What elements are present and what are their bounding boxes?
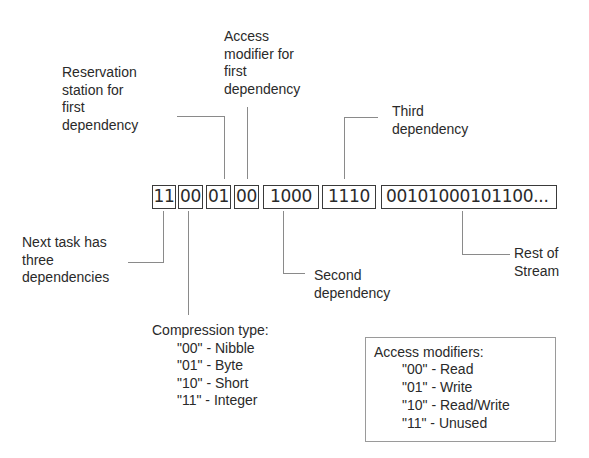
compression-type-item: "00" - Nibble bbox=[152, 340, 322, 358]
connector-compression-type bbox=[188, 211, 189, 315]
bit-segment-third-dependency: 1110 bbox=[322, 185, 376, 209]
bit-segment-second-dependency: 1000 bbox=[263, 185, 319, 209]
connector-next-task-horizontal bbox=[128, 262, 164, 263]
access-modifier-annotation: Access modifier for first dependency bbox=[224, 28, 300, 98]
second-dependency-annotation: Second dependency bbox=[314, 267, 390, 302]
connector-next-task-vertical bbox=[163, 211, 164, 263]
rest-of-stream-annotation: Rest of Stream bbox=[514, 245, 559, 280]
bit-segment-compression: 00 bbox=[178, 185, 203, 209]
access-modifier-item: "01" - Write bbox=[402, 379, 472, 397]
bit-segment-access-modifier: 00 bbox=[234, 185, 259, 209]
connector-rest-of-stream-vertical bbox=[462, 211, 463, 255]
compression-type-item: "01" - Byte bbox=[152, 357, 322, 375]
bit-segment-rest-of-stream: 00101000101100... bbox=[381, 185, 557, 209]
reservation-station-annotation: Reservation station for first dependency bbox=[62, 64, 138, 134]
connector-access-modifier bbox=[247, 107, 248, 179]
compression-type-item: "10" - Short bbox=[152, 375, 322, 393]
connector-second-dependency-vertical bbox=[283, 211, 284, 274]
compression-type-legend: Compression type: "00" - Nibble "01" - B… bbox=[152, 322, 322, 410]
third-dependency-annotation: Third dependency bbox=[392, 103, 468, 138]
connector-second-dependency-horizontal bbox=[283, 273, 305, 274]
compression-type-item: "11" - Integer bbox=[152, 392, 322, 410]
connector-rest-of-stream-horizontal bbox=[462, 254, 510, 255]
connector-reservation-horizontal bbox=[177, 116, 225, 117]
access-modifiers-legend: Access modifiers: "00" - Read "01" - Wri… bbox=[365, 337, 556, 442]
bit-segment-reservation-station: 01 bbox=[206, 185, 231, 209]
connector-reservation-vertical bbox=[224, 116, 225, 179]
next-task-annotation: Next task has three dependencies bbox=[22, 234, 109, 287]
bit-segment-dep-count: 11 bbox=[152, 185, 176, 209]
access-modifier-item: "00" - Read bbox=[402, 361, 473, 379]
connector-third-dependency-vertical bbox=[344, 117, 345, 179]
access-modifiers-title: Access modifiers: bbox=[374, 344, 484, 362]
access-modifier-item: "11" - Unused bbox=[402, 415, 487, 433]
compression-type-title: Compression type: bbox=[152, 322, 322, 340]
access-modifier-item: "10" - Read/Write bbox=[402, 397, 510, 415]
connector-third-dependency-horizontal bbox=[344, 117, 378, 118]
